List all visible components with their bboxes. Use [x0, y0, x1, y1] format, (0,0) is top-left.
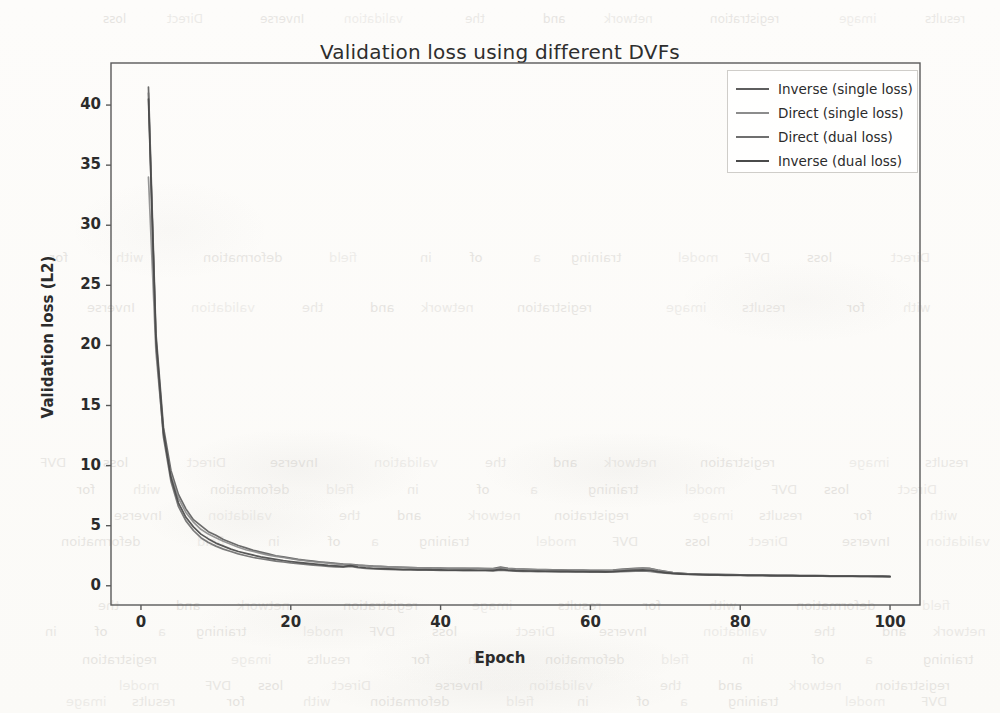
x-tick-label: 20	[261, 613, 321, 631]
x-tick-label: 60	[560, 613, 620, 631]
y-tick-label: 25	[53, 275, 101, 293]
x-tick-label: 100	[860, 613, 920, 631]
y-tick-label: 10	[53, 456, 101, 474]
y-tick-label: 35	[53, 155, 101, 173]
legend-item-direct-dual: Direct (dual loss)	[736, 125, 909, 149]
legend-item-label: Inverse (single loss)	[778, 81, 913, 97]
legend-line-icon	[736, 136, 769, 138]
chart-legend: Inverse (single loss) Direct (single los…	[727, 70, 918, 173]
y-tick-label: 15	[53, 396, 101, 414]
y-tick-label: 30	[53, 215, 101, 233]
chart-figure: Validation loss using different DVFs Val…	[0, 0, 1000, 713]
legend-item-inverse-single: Inverse (single loss)	[736, 77, 909, 101]
y-tick-label: 20	[53, 335, 101, 353]
legend-item-label: Inverse (dual loss)	[778, 153, 902, 169]
x-tick-label: 0	[111, 613, 171, 631]
x-tick-label: 80	[710, 613, 770, 631]
y-tick-label: 5	[53, 516, 101, 534]
legend-line-icon	[736, 160, 769, 162]
legend-item-label: Direct (single loss)	[778, 105, 904, 121]
x-tick-label: 40	[411, 613, 471, 631]
y-tick-label: 40	[53, 95, 101, 113]
y-tick-label: 0	[53, 576, 101, 594]
legend-line-icon	[736, 112, 769, 114]
legend-item-direct-single: Direct (single loss)	[736, 101, 909, 125]
legend-line-icon	[736, 88, 769, 90]
legend-item-inverse-dual: Inverse (dual loss)	[736, 149, 909, 173]
legend-item-label: Direct (dual loss)	[778, 129, 893, 145]
